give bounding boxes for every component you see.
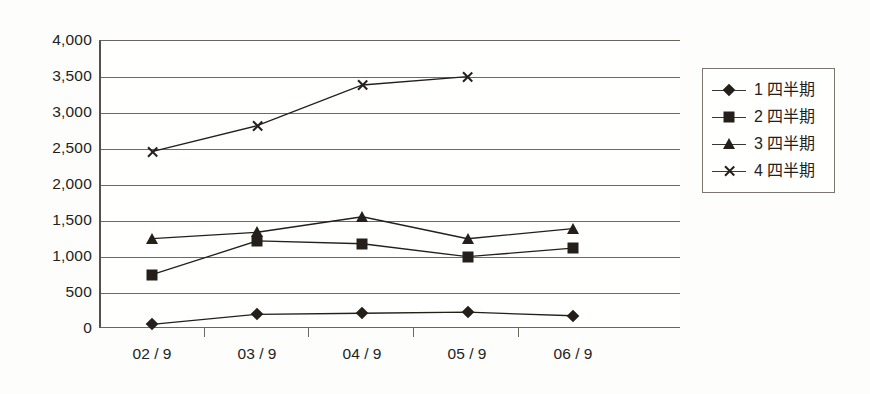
y-tick-label: 0 xyxy=(83,319,92,337)
legend-label: 4 四半期 xyxy=(754,162,815,180)
line-chart: 4,000 3,500 3,000 2,500 2,000 1,500 1,00… xyxy=(0,0,870,394)
x-tick-separator xyxy=(308,328,309,337)
data-point-triangle xyxy=(356,211,368,222)
data-point-triangle xyxy=(462,233,474,244)
x-tick-label: 02 / 9 xyxy=(133,345,172,363)
y-tick-label: 1,500 xyxy=(52,211,92,229)
legend-label: 3 四半期 xyxy=(754,135,815,153)
y-tick-label: 3,500 xyxy=(52,67,92,85)
legend: 1 四半期 2 四半期 3 四半期 4 四半期 xyxy=(702,68,835,193)
data-point-cross xyxy=(461,70,474,83)
plot-area xyxy=(99,40,680,328)
legend-item-3[interactable]: 3 四半期 xyxy=(712,130,825,157)
cross-marker-icon xyxy=(712,162,746,180)
data-point-square xyxy=(462,251,473,262)
y-tick-label: 1,000 xyxy=(52,247,92,265)
x-tick-separator xyxy=(204,328,205,337)
legend-item-2[interactable]: 2 四半期 xyxy=(712,103,825,130)
y-tick-label: 500 xyxy=(66,283,92,301)
gridline xyxy=(101,221,680,222)
data-point-cross xyxy=(251,119,264,132)
data-point-cross xyxy=(146,145,159,158)
data-point-triangle xyxy=(146,233,158,244)
gridline xyxy=(101,257,680,258)
data-point-cross xyxy=(356,79,369,92)
diamond-marker-icon xyxy=(712,81,746,99)
y-tick-label: 3,000 xyxy=(52,103,92,121)
x-tick-label: 06 / 9 xyxy=(554,345,593,363)
y-tick-label: 2,000 xyxy=(52,175,92,193)
y-tick-label: 2,500 xyxy=(52,139,92,157)
legend-label: 2 四半期 xyxy=(754,108,815,126)
y-tick-label: 4,000 xyxy=(52,31,92,49)
x-tick-label: 03 / 9 xyxy=(238,345,277,363)
data-point-triangle xyxy=(251,226,263,237)
gridline xyxy=(101,185,680,186)
triangle-marker-icon xyxy=(712,135,746,153)
data-point-square xyxy=(147,269,158,280)
gridline xyxy=(101,293,680,294)
gridline xyxy=(101,149,680,150)
square-marker-icon xyxy=(712,108,746,126)
x-tick-separator xyxy=(413,328,414,337)
legend-item-4[interactable]: 4 四半期 xyxy=(712,157,825,184)
gridline xyxy=(101,113,680,114)
legend-label: 1 四半期 xyxy=(754,81,815,99)
gridline xyxy=(101,77,680,78)
y-axis-labels: 4,000 3,500 3,000 2,500 2,000 1,500 1,00… xyxy=(0,0,92,394)
x-tick-separator xyxy=(518,328,519,337)
x-tick-label: 04 / 9 xyxy=(343,345,382,363)
data-point-square xyxy=(567,243,578,254)
legend-item-1[interactable]: 1 四半期 xyxy=(712,76,825,103)
data-point-square xyxy=(357,238,368,249)
x-tick-label: 05 / 9 xyxy=(448,345,487,363)
data-point-triangle xyxy=(567,223,579,234)
